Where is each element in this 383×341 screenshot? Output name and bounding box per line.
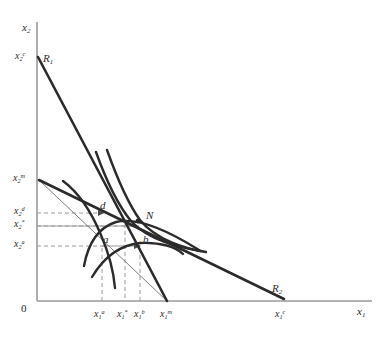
origin-label: 0 bbox=[21, 303, 27, 314]
x-axis-label: x1 bbox=[357, 306, 365, 317]
point-connector-lines bbox=[37, 226, 140, 246]
curve-label-R1: R1 bbox=[43, 53, 53, 64]
x-tick-label-x1-b: x1b bbox=[134, 309, 145, 319]
economics-reaction-curve-diagram: x2 x1 0 x2c x2m x2d x2* x2a x1a x1* x1b … bbox=[0, 0, 383, 341]
plot-canvas bbox=[0, 0, 383, 341]
indifference-curves bbox=[63, 150, 206, 288]
point-label-d: d bbox=[100, 200, 106, 211]
x-tick-label-x1-m: x1m bbox=[160, 309, 172, 319]
y-tick-label-x2-a: x2a bbox=[14, 239, 25, 249]
y-tick-label-x2-m: x2m bbox=[13, 173, 25, 183]
x-tick-label-x1-star: x1* bbox=[117, 309, 128, 319]
curve-label-R2: R2 bbox=[272, 283, 282, 294]
point-label-N: N bbox=[146, 210, 153, 221]
y-tick-label-x2-star: x2* bbox=[14, 219, 25, 229]
x-tick-label-x1-c: x1c bbox=[275, 309, 285, 319]
point-N bbox=[136, 219, 141, 224]
point-label-a: a bbox=[103, 234, 109, 245]
point-label-b: b bbox=[143, 234, 149, 245]
reaction-line-R2 bbox=[39, 180, 284, 299]
x-tick-label-x1-a: x1a bbox=[94, 309, 105, 319]
y-tick-label-x2-c: x2c bbox=[15, 51, 25, 61]
marked-points bbox=[136, 219, 141, 224]
y-tick-label-x2-d: x2d bbox=[14, 206, 25, 216]
y-axis-label: x2 bbox=[22, 22, 30, 33]
